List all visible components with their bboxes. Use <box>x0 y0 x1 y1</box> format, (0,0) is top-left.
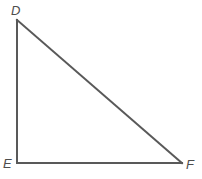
triangle-diagram <box>0 0 202 179</box>
vertex-label-e: E <box>3 157 12 170</box>
triangle-figure-canvas: D E F <box>0 0 202 179</box>
vertex-label-d: D <box>11 4 20 17</box>
edge-DF-hypotenuse <box>17 20 182 163</box>
vertex-label-f: F <box>186 158 194 171</box>
